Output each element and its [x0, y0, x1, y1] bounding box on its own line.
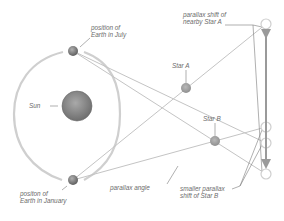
label-sun: Sun [29, 102, 41, 109]
sight-lines-january [73, 24, 266, 180]
earth-january [68, 175, 78, 185]
star-b [210, 136, 220, 146]
sun [62, 91, 92, 121]
star-a-apparent-july [261, 19, 271, 29]
label-earth-july: position ofEarth in July [90, 24, 127, 39]
sight-lines-july [73, 51, 266, 174]
label-parallax-angle: parallax angle [109, 184, 150, 192]
label-earth-january: positon ofEarth in January [19, 190, 67, 205]
label-star-b: Star B [203, 115, 221, 122]
star-a-apparent-january [261, 169, 271, 179]
parallax-diagram: position ofEarth in July Sun positon ofE… [0, 0, 284, 221]
label-parallax-shift-b: smaller parallaxshift of Star B [180, 185, 226, 199]
label-star-a: Star A [172, 62, 190, 69]
earth-july [68, 46, 78, 56]
star-a [181, 83, 191, 93]
label-parallax-shift-a: parallax shift ofnearby Star A [182, 11, 227, 26]
